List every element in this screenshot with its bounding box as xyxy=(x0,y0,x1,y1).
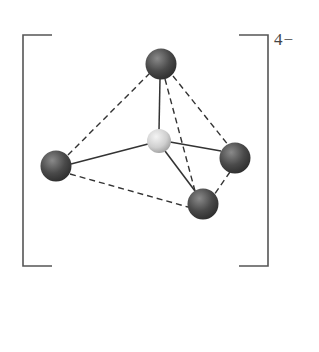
bond-central-right xyxy=(170,142,221,151)
edge-left-bottom xyxy=(70,174,188,207)
edge-top-bottom xyxy=(165,79,195,191)
central-atom xyxy=(147,129,171,153)
bond-central-bottom xyxy=(165,151,195,191)
edge-top-left xyxy=(67,73,150,156)
ligand-atom-right xyxy=(220,143,251,174)
ion-charge-label: 4− xyxy=(274,30,294,50)
bond-central-top xyxy=(159,79,160,130)
ligand-atom-left xyxy=(41,151,72,182)
tetrahedral-structure-diagram xyxy=(0,0,319,352)
bonds xyxy=(71,79,221,191)
edge-right-bottom xyxy=(214,172,230,195)
edge-top-right xyxy=(173,76,229,146)
left-bracket xyxy=(23,35,52,266)
bond-central-left xyxy=(71,144,148,164)
ligand-atom-top xyxy=(146,49,177,80)
ligand-atom-bottom xyxy=(188,189,219,220)
